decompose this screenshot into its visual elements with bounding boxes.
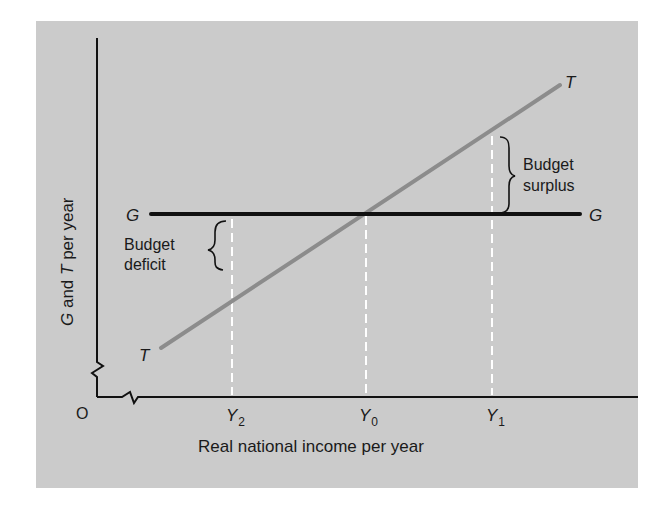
- t-left-label: T: [139, 346, 151, 365]
- g-left-label: G: [126, 206, 139, 225]
- y-axis: [92, 38, 103, 397]
- y-axis-title: G and T per year: [58, 197, 77, 326]
- x-axis: [97, 392, 638, 403]
- deficit-label-line1: Budget: [124, 236, 175, 253]
- t-right-label: T: [565, 73, 577, 92]
- y0-tick-label: Y0: [359, 406, 378, 429]
- surplus-brace: [500, 137, 515, 213]
- deficit-brace: [208, 221, 226, 270]
- g-right-label: G: [589, 206, 602, 225]
- y2-tick-label: Y2: [226, 406, 245, 429]
- t-line: [161, 85, 560, 348]
- x-axis-title: Real national income per year: [198, 437, 424, 456]
- surplus-label-line2: surplus: [523, 177, 575, 194]
- origin-label: O: [76, 405, 88, 422]
- deficit-label-line2: deficit: [124, 256, 166, 273]
- y1-tick-label: Y1: [486, 406, 505, 429]
- surplus-label-line1: Budget: [523, 156, 574, 173]
- budget-chart: G G T T Budget deficit Budget surplus O …: [0, 0, 666, 509]
